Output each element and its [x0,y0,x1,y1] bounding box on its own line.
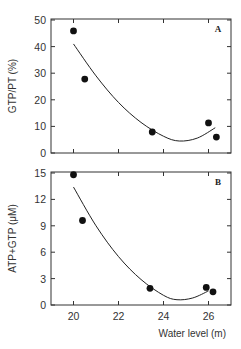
data-point [79,217,86,224]
y-tick-label: 6 [40,246,46,258]
figure: 01020304050GTP/PT (%)A 0369121520222426A… [0,0,241,349]
y-tick-label: 20 [34,94,46,106]
data-point [147,285,154,292]
data-point [149,129,156,136]
data-point [203,284,210,291]
plot-frame [51,19,231,153]
panel-tag: B [215,177,221,187]
x-tick-label: 26 [203,310,215,322]
y-tick-label: 50 [34,14,46,26]
x-tick-label: 20 [68,310,80,322]
fit-curve [74,44,216,141]
data-point [213,134,220,141]
y-tick-label: 40 [34,41,46,53]
y-tick-label: 12 [34,193,46,205]
data-point [210,288,217,295]
x-axis-label: Water level (m) [159,328,226,339]
y-tick-label: 30 [34,67,46,79]
y-tick-label: 0 [40,299,46,311]
y-axis-label: GTP/PT (%) [7,59,18,113]
x-tick-label: 22 [113,310,125,322]
y-tick-label: 15 [34,167,46,179]
panel-a: 01020304050GTP/PT (%)A [7,14,231,159]
y-tick-label: 10 [34,120,46,132]
data-point [205,120,212,127]
data-point [70,171,77,178]
y-axis-label: ATP+GTP (μM) [7,204,18,272]
panel-tag: A [215,24,222,34]
y-tick-label: 3 [40,273,46,285]
fit-curve [74,187,209,300]
data-point [81,76,88,83]
x-tick-label: 24 [158,310,170,322]
y-tick-label: 9 [40,220,46,232]
panel-b: 0369121520222426ATP+GTP (μM)B [7,167,231,322]
y-tick-label: 0 [40,147,46,159]
data-point [70,28,77,35]
